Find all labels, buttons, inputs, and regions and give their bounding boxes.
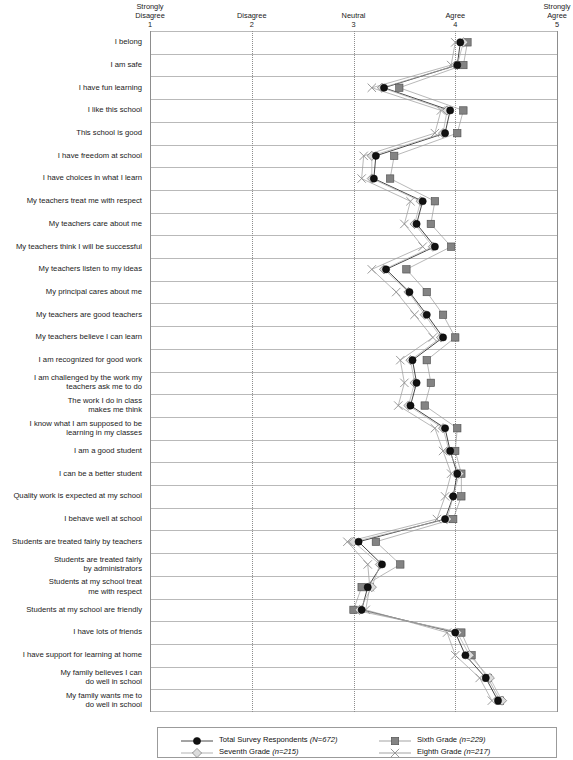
category-label: I like this school xyxy=(0,105,146,114)
data-point xyxy=(452,629,459,636)
category-label: My teachers listen to my ideas xyxy=(0,264,146,273)
data-point xyxy=(364,584,371,591)
legend-label: Eighth Grade (n=217) xyxy=(417,747,490,756)
data-point xyxy=(454,61,461,68)
legend-marker-icon xyxy=(180,733,214,745)
category-label: My teachers care about me xyxy=(0,219,146,228)
series-line xyxy=(354,42,501,700)
data-point xyxy=(447,243,454,250)
category-label: I behave well at school xyxy=(0,514,146,523)
data-point xyxy=(427,379,434,386)
data-point xyxy=(407,402,414,409)
data-point xyxy=(441,515,448,522)
category-label: I am a good student xyxy=(0,446,146,455)
x-axis-tick-5: Strongly Agree5 xyxy=(522,3,573,29)
legend-marker-icon xyxy=(180,745,214,757)
category-label: I belong xyxy=(0,37,146,46)
data-point xyxy=(413,220,420,227)
category-label: My family believes I can do well in scho… xyxy=(0,668,146,686)
category-label: I have choices in what I learn xyxy=(0,173,146,182)
category-label: I can be a better student xyxy=(0,469,146,478)
category-label: My teachers think I will be successful xyxy=(0,242,146,251)
data-point xyxy=(418,242,426,250)
series-line xyxy=(354,42,503,700)
data-point xyxy=(427,220,434,227)
legend-label: Seventh Grade (n=215) xyxy=(219,747,299,756)
x-axis-tick-1: Strongly Disagree1 xyxy=(115,3,185,29)
data-point xyxy=(421,402,428,409)
data-point xyxy=(413,379,420,386)
category-label: I have fun learning xyxy=(0,83,146,92)
category-label: Quality work is expected at my school xyxy=(0,491,146,500)
data-point xyxy=(439,334,446,341)
data-point xyxy=(380,84,387,91)
data-point xyxy=(386,175,393,182)
data-point xyxy=(454,470,461,477)
data-point xyxy=(454,129,461,136)
data-point xyxy=(429,333,437,341)
category-label: Students at my school are friendly xyxy=(0,605,146,614)
category-label: My teachers believe I can learn xyxy=(0,332,146,341)
data-point xyxy=(423,356,430,363)
data-point xyxy=(406,288,413,295)
legend-label: Total Survey Respondents (N=672) xyxy=(219,735,337,744)
data-point xyxy=(441,425,448,432)
legend-entry: Seventh Grade (n=215) xyxy=(180,745,299,757)
x-axis-tick-4: Agree4 xyxy=(420,12,490,30)
category-label: Students are treated fairly by teachers xyxy=(0,537,146,546)
x-axis-header: Strongly Disagree1Disagree2Neutral3Agree… xyxy=(0,0,573,31)
category-label: I have lots of friends xyxy=(0,627,146,636)
x-axis-tick-2: Disagree2 xyxy=(217,12,287,30)
data-point xyxy=(431,198,438,205)
category-label: I know what I am supposed to be learning… xyxy=(0,419,146,437)
data-point xyxy=(378,561,385,568)
x-axis-tick-3: Neutral3 xyxy=(319,12,389,30)
data-point xyxy=(370,175,377,182)
data-point xyxy=(368,265,376,273)
data-point xyxy=(431,424,439,432)
data-point xyxy=(382,266,389,273)
data-point xyxy=(423,288,430,295)
data-point xyxy=(410,311,418,319)
plot-area xyxy=(150,31,557,712)
data-point xyxy=(450,493,457,500)
gridline-5 xyxy=(557,31,558,712)
data-point xyxy=(441,492,449,500)
data-point xyxy=(400,220,408,228)
legend-label: Sixth Grade (n=229) xyxy=(417,735,486,744)
data-point xyxy=(392,288,400,296)
category-label-column: I belongI am safeI have fun learningI li… xyxy=(0,31,146,712)
category-label: I am safe xyxy=(0,60,146,69)
data-point xyxy=(451,651,459,659)
category-label: I am challenged by the work my teachers … xyxy=(0,373,146,391)
data-point xyxy=(419,198,426,205)
category-label: The work I do in class makes me think xyxy=(0,396,146,414)
category-label: This school is good xyxy=(0,128,146,137)
data-point xyxy=(372,152,379,159)
data-point xyxy=(403,266,410,273)
data-point xyxy=(355,538,362,545)
data-point xyxy=(372,538,379,545)
legend-marker-icon xyxy=(378,745,412,757)
legend: Total Survey Respondents (N=672)Seventh … xyxy=(157,727,557,758)
category-label: My family wants me to do well in school xyxy=(0,691,146,709)
category-label: I am recognized for good work xyxy=(0,355,146,364)
data-point xyxy=(494,697,501,704)
category-label: Students at my school treat me with resp… xyxy=(0,577,146,595)
data-point xyxy=(397,561,404,568)
category-label: I have freedom at school xyxy=(0,151,146,160)
data-point xyxy=(462,652,469,659)
survey-line-chart: Strongly Disagree1Disagree2Neutral3Agree… xyxy=(0,0,573,760)
data-point xyxy=(452,334,459,341)
category-label: Students are treated fairly by administr… xyxy=(0,555,146,573)
series-layer xyxy=(150,31,557,712)
data-point xyxy=(394,401,402,409)
data-point xyxy=(441,130,448,137)
data-point xyxy=(431,243,438,250)
data-point xyxy=(457,39,464,46)
data-point xyxy=(391,152,398,159)
category-label: My teachers treat me with respect xyxy=(0,196,146,205)
legend-entry: Eighth Grade (n=217) xyxy=(378,745,490,757)
category-label: My principal cares about me xyxy=(0,287,146,296)
category-label: My teachers are good teachers xyxy=(0,310,146,319)
